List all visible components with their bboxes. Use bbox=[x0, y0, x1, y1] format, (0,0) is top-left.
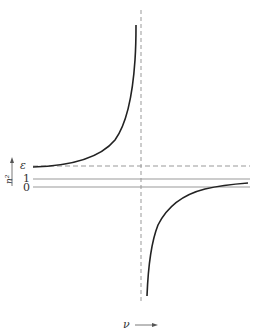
x-axis-label: ν bbox=[123, 319, 130, 330]
zero-label: 0 bbox=[23, 182, 30, 193]
x-axis-arrowhead-icon bbox=[152, 323, 158, 327]
epsilon-label: ε bbox=[20, 160, 26, 171]
y-axis-label: n² bbox=[5, 175, 14, 184]
lower-branch-curve bbox=[147, 183, 248, 296]
y-axis-arrowhead-icon bbox=[10, 157, 14, 163]
dispersion-diagram bbox=[0, 0, 254, 334]
upper-branch-curve bbox=[33, 25, 136, 167]
